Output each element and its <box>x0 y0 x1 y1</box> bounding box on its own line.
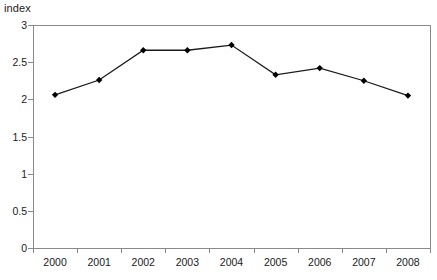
data-point-marker <box>184 47 190 53</box>
data-point-marker <box>405 92 411 98</box>
data-point-marker <box>317 65 323 71</box>
line-chart-figure: index 00.511.522.53 20002001200220032004… <box>0 0 437 280</box>
data-point-marker <box>361 78 367 84</box>
series-markers-index <box>52 42 411 99</box>
data-point-marker <box>52 92 58 98</box>
series-line-index <box>55 45 408 96</box>
data-series-layer <box>0 0 437 280</box>
